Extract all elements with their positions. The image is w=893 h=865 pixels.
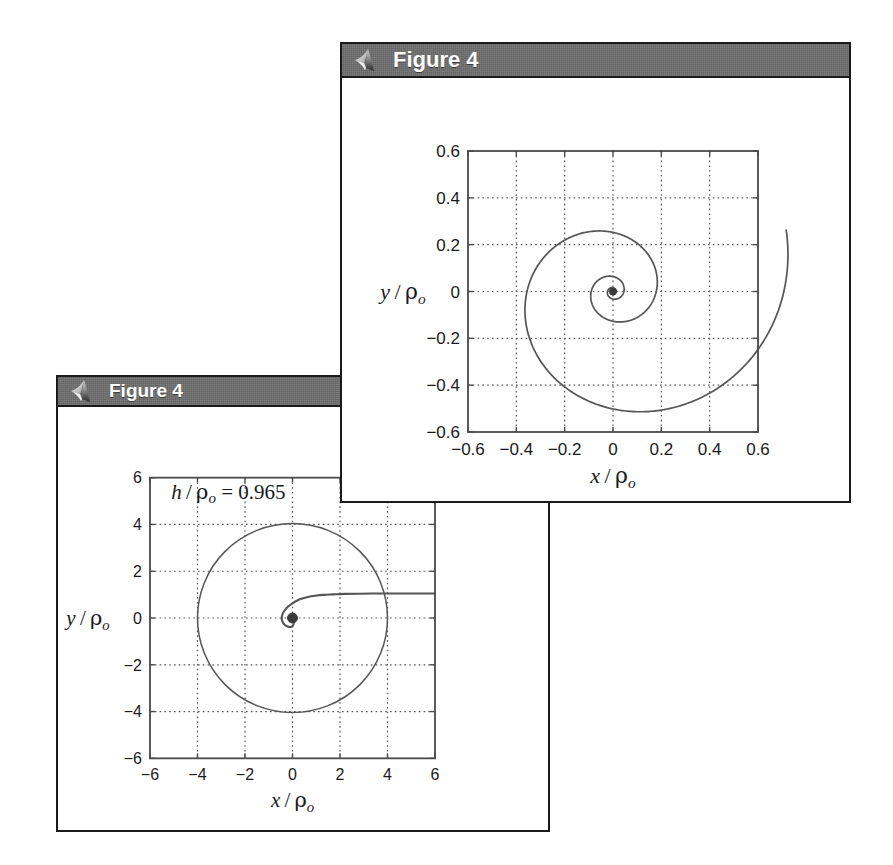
window-title-top: Figure 4 [393, 47, 479, 73]
y-tick-label: 0.6 [436, 142, 460, 161]
x-axis-label: x / ρo [270, 788, 314, 815]
y-tick-label: −2 [124, 657, 142, 674]
x-tick-label: −0.4 [500, 440, 534, 459]
y-axis-label: y / ρo [64, 606, 109, 633]
x-tick-label: 2 [336, 766, 345, 783]
x-tick-label: 0 [608, 440, 617, 459]
y-tick-label: 6 [133, 469, 142, 486]
x-tick-label: 0.2 [650, 440, 674, 459]
x-tick-label: −4 [188, 766, 206, 783]
y-tick-label: −0.4 [426, 376, 460, 395]
y-tick-label: −0.6 [426, 423, 460, 442]
plot-top: −0.6−0.4−0.200.20.40.6−0.6−0.4−0.200.20.… [342, 78, 849, 501]
h-over-rho-annotation: h / ρo = 0.965 [171, 480, 285, 507]
x-tick-label: 4 [383, 766, 392, 783]
screenshot-root: Figure 4 −6−4−20246−6−4−20246x / ρoy / ρ… [0, 0, 893, 865]
window-title-bottom: Figure 4 [109, 380, 183, 402]
origin-marker [609, 288, 616, 295]
y-tick-label: 4 [133, 516, 142, 533]
x-tick-label: 0 [288, 766, 297, 783]
y-tick-label: 0 [133, 610, 142, 627]
x-tick-label: −2 [236, 766, 254, 783]
figure-window-top[interactable]: Figure 4 −0.6−0.4−0.200.20.40.6−0.6−0.4−… [340, 42, 851, 503]
y-tick-label: −6 [124, 750, 142, 767]
y-tick-label: −4 [124, 703, 142, 720]
y-tick-label: −0.2 [426, 329, 460, 348]
y-axis-label: y / ρo [378, 279, 426, 307]
titlebar-top[interactable]: Figure 4 [342, 44, 849, 78]
x-tick-label: −6 [141, 766, 159, 783]
y-tick-label: 0.4 [436, 189, 460, 208]
figure-canvas-top: −0.6−0.4−0.200.20.40.6−0.6−0.4−0.200.20.… [342, 78, 849, 501]
y-tick-label: 2 [133, 563, 142, 580]
x-tick-label: 0.6 [746, 440, 770, 459]
series-incoming-trajectory [282, 593, 435, 627]
matlab-membrane-icon [351, 47, 381, 73]
origin-marker [288, 613, 298, 623]
x-tick-label: 0.4 [698, 440, 722, 459]
x-tick-label: −0.2 [548, 440, 582, 459]
x-axis-label: x / ρo [589, 463, 636, 491]
x-tick-label: −0.6 [451, 440, 485, 459]
y-tick-label: 0 [451, 283, 460, 302]
y-tick-label: 0.2 [436, 236, 460, 255]
x-tick-label: 6 [431, 766, 440, 783]
matlab-membrane-icon [67, 378, 97, 404]
